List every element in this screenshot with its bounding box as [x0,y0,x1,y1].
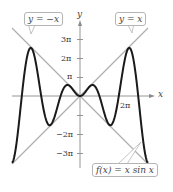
x-axis-arrow-icon [149,94,155,98]
x-tick-2pi: 2π [120,101,130,110]
y-tick-pi: π [67,72,72,81]
y-axis-label: y [77,9,82,19]
callout-f-x: f(x) = x sin x [92,163,158,177]
y-ticks [77,40,119,154]
callout-y-equals-x: y = x [115,12,146,26]
y-tick-2pi: 2π [61,54,71,63]
y-tick-neg-2pi: −2π [56,130,73,139]
callout-y-equals-neg-x: y = −x [24,12,63,26]
x-axis-label: x [158,89,163,99]
y-axis-arrow-icon [78,20,82,26]
y-tick-neg-3pi: −3π [56,149,73,158]
y-tick-3pi: 3π [61,35,71,44]
